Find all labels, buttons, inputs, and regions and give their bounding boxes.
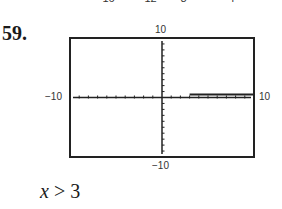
answer-relation: > 3 xyxy=(49,180,80,202)
graph-window xyxy=(0,0,282,209)
answer-inequality: x > 3 xyxy=(40,180,80,203)
answer-variable: x xyxy=(40,180,49,202)
